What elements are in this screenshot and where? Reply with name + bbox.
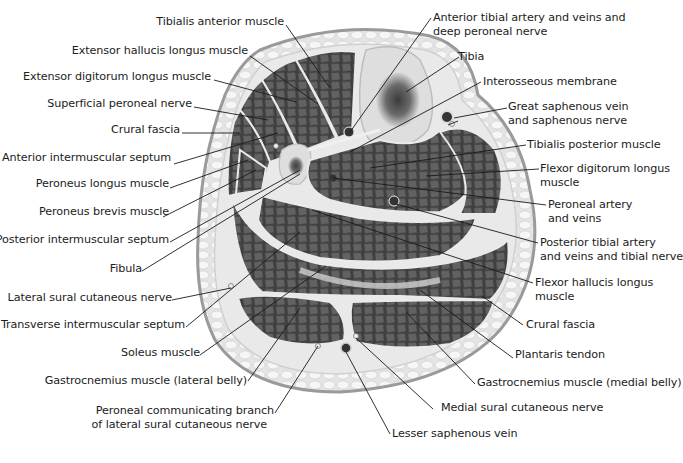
label-peroneal-communicating-branch: Peroneal communicating branch (96, 404, 274, 418)
label-peroneal-communicating-branch-2: of lateral sural cutaneous nerve (92, 418, 267, 432)
label-crural-fascia-right: Crural fascia (526, 318, 595, 332)
label-transverse-intermuscular-septum: Transverse intermuscular septum (1, 318, 185, 332)
label-tibia: Tibia (458, 50, 484, 64)
label-peroneus-brevis-muscle: Peroneus brevis muscle (39, 205, 169, 219)
label-medial-sural-cutaneous-nerve: Medial sural cutaneous nerve (441, 401, 603, 415)
label-flexor-digitorum-longus: Flexor digitorum longus (540, 162, 670, 176)
label-anterior-tibial-artery-2: deep peroneal nerve (433, 25, 547, 39)
label-posterior-intermuscular-septum: Posterior intermuscular septum (0, 233, 169, 247)
label-gastrocnemius-lateral-belly: Gastrocnemius muscle (lateral belly) (45, 374, 247, 388)
label-peroneal-artery: Peroneal artery (548, 198, 632, 212)
label-peroneus-longus-muscle: Peroneus longus muscle (36, 177, 169, 191)
label-tibialis-anterior-muscle: Tibialis anterior muscle (156, 15, 284, 29)
label-peroneal-artery-2: and veins (548, 212, 601, 226)
label-fibula: Fibula (110, 262, 142, 276)
label-anterior-tibial-artery: Anterior tibial artery and veins and (433, 11, 626, 25)
label-crural-fascia-left: Crural fascia (111, 123, 180, 137)
label-gastrocnemius-medial-belly: Gastrocnemius muscle (medial belly) (477, 376, 682, 390)
label-soleus-muscle: Soleus muscle (121, 346, 200, 360)
label-posterior-tibial-artery-2: and veins and tibial nerve (540, 250, 683, 264)
label-flexor-hallucis-longus: Flexor hallucis longus (535, 276, 653, 290)
label-lesser-saphenous-vein: Lesser saphenous vein (392, 427, 517, 441)
label-extensor-digitorum-longus-muscle: Extensor digitorum longus muscle (23, 70, 211, 84)
label-great-saphenous-vein: Great saphenous vein (508, 100, 629, 114)
label-great-saphenous-vein-2: and saphenous nerve (508, 114, 627, 128)
label-superficial-peroneal-nerve: Superficial peroneal nerve (47, 97, 192, 111)
label-flexor-hallucis-longus-2: muscle (535, 290, 574, 304)
label-plantaris-tendon: Plantaris tendon (515, 348, 605, 362)
label-posterior-tibial-artery: Posterior tibial artery (540, 236, 656, 250)
label-flexor-digitorum-longus-2: muscle (540, 176, 579, 190)
label-extensor-hallucis-longus-muscle: Extensor hallucis longus muscle (72, 44, 248, 58)
label-anterior-intermuscular-septum: Anterior intermuscular septum (2, 151, 171, 165)
label-tibialis-posterior-muscle: Tibialis posterior muscle (527, 138, 660, 152)
label-lateral-sural-cutaneous-nerve: Lateral sural cutaneous nerve (8, 291, 172, 305)
label-interosseous-membrane: Interosseous membrane (483, 75, 617, 89)
